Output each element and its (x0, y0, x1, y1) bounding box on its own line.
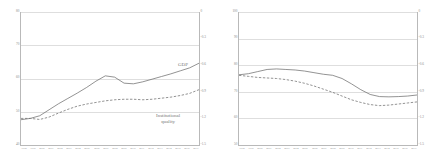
y-axis-right-tick: -0.6 (201, 63, 206, 66)
series-line-gdp (21, 63, 199, 120)
annotation-institutional-quality: Institutional quality (156, 113, 180, 125)
y-axis-right-tick: 0 (201, 10, 203, 13)
y-axis-left-tick: 70 (234, 90, 237, 93)
x-tick: 2016 (184, 147, 189, 150)
x-tick: 2007 (321, 147, 326, 150)
x-tick: 2010 (130, 147, 135, 150)
x-tick: 2015 (175, 147, 180, 150)
x-tick: 2017 (193, 147, 198, 150)
y-axis-left-tick: 70 (16, 43, 19, 46)
x-tick: 2006 (312, 147, 317, 150)
y-axis-left-tick: 50 (16, 110, 19, 113)
x-tick: 2010 (348, 147, 353, 150)
x-tick: 2005 (303, 147, 308, 150)
x-tick: 2000 (39, 147, 44, 150)
x-tick: 2008 (330, 147, 335, 150)
annotation-line-1: Institutional (156, 113, 180, 119)
x-tick: 1998 (21, 147, 26, 150)
y-axis-left-tick: 80 (16, 10, 19, 13)
series-lines-left (21, 12, 199, 145)
y-axis-left-tick: 40 (16, 143, 19, 146)
y-axis-right-tick: -1.2 (419, 116, 424, 119)
y-axis-left-tick: 50 (234, 143, 237, 146)
dual-chart-figure: EU11 80 70 60 50 40 0 -0.3 -0.6 -0.9 -1.… (0, 0, 436, 168)
annotation-line-2: quality (156, 119, 180, 125)
x-tick: 2003 (67, 147, 72, 150)
x-tick: 1998 (239, 147, 244, 150)
x-tick: 2013 (375, 147, 380, 150)
chart-panel-eu11: EU11 80 70 60 50 40 0 -0.3 -0.6 -0.9 -1.… (0, 0, 218, 168)
x-tick: 2017 (411, 147, 416, 150)
y-axis-left-tick: 90 (234, 36, 237, 39)
y-axis-right-tick: -1.5 (419, 143, 424, 146)
annotation-gdp: GDP (178, 62, 188, 68)
x-axis-ticks-right: 1998 1999 2000 2001 2002 2003 2004 2005 … (239, 147, 417, 150)
x-tick: 2004 (294, 147, 299, 150)
x-tick: 2006 (94, 147, 99, 150)
x-tick: 2015 (393, 147, 398, 150)
y-axis-right-tick: -0.3 (201, 36, 206, 39)
x-tick: 2002 (57, 147, 62, 150)
series-line-institutional-quality (239, 75, 417, 105)
y-axis-right-tick: -1.2 (201, 116, 206, 119)
series-lines-right (239, 12, 417, 145)
x-tick: 2012 (148, 147, 153, 150)
x-tick: 2002 (275, 147, 280, 150)
y-axis-left-tick: 100 (232, 10, 237, 13)
x-tick: 2004 (76, 147, 81, 150)
x-tick: 1999 (30, 147, 35, 150)
x-tick: 2011 (139, 147, 144, 150)
y-axis-right-tick: -1.5 (201, 143, 206, 146)
x-tick: 2005 (85, 147, 90, 150)
x-tick: 2001 (266, 147, 271, 150)
x-tick: 2008 (112, 147, 117, 150)
x-tick: 2014 (384, 147, 389, 150)
x-tick: 2003 (285, 147, 290, 150)
y-axis-left-tick: 80 (234, 63, 237, 66)
y-axis-left-tick: 60 (234, 116, 237, 119)
y-axis-right-tick: -0.3 (419, 36, 424, 39)
y-axis-right-tick: 0 (419, 10, 421, 13)
plot-area-right: 100 90 80 70 60 50 0 -0.3 -0.6 -0.9 -1.2… (238, 12, 418, 146)
x-tick: 2009 (121, 147, 126, 150)
y-axis-right-tick: -0.6 (419, 63, 424, 66)
x-tick: 2014 (166, 147, 171, 150)
plot-area-left: 80 70 60 50 40 0 -0.3 -0.6 -0.9 -1.2 -1.… (20, 12, 200, 146)
x-tick: 2016 (402, 147, 407, 150)
x-axis-ticks-left: 1998 1999 2000 2001 2002 2003 2004 2005 … (21, 147, 199, 150)
series-line-gdp (239, 69, 417, 97)
y-axis-left-tick: 60 (16, 76, 19, 79)
y-axis-right-tick: -0.9 (419, 90, 424, 93)
y-axis-right-tick: -0.9 (201, 90, 206, 93)
x-tick: 2001 (48, 147, 53, 150)
x-tick: 1999 (248, 147, 253, 150)
chart-panel-eusa: EU-SA 100 90 80 70 60 50 0 -0.3 -0.6 -0.… (218, 0, 436, 168)
x-tick: 2009 (339, 147, 344, 150)
x-tick: 2013 (157, 147, 162, 150)
x-tick: 2011 (357, 147, 362, 150)
x-tick: 2012 (366, 147, 371, 150)
x-tick: 2007 (103, 147, 108, 150)
x-tick: 2000 (257, 147, 262, 150)
